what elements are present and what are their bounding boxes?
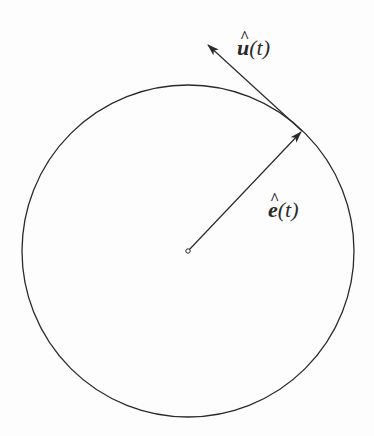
tangent-vector-label: u(t) ^ xyxy=(237,28,270,60)
u-argument: (t) xyxy=(249,35,270,60)
unit-vectors-diagram: u(t) ^ e(t) ^ xyxy=(0,0,374,436)
e-argument: (t) xyxy=(278,197,299,222)
diagram-canvas: u(t) ^ e(t) ^ xyxy=(0,0,374,436)
center-point xyxy=(186,249,190,253)
radial-vector-arrow xyxy=(188,132,301,251)
e-hat-symbol: ^ xyxy=(270,190,279,207)
u-hat-symbol: ^ xyxy=(240,28,249,45)
radial-vector-label: e(t) ^ xyxy=(268,190,299,222)
